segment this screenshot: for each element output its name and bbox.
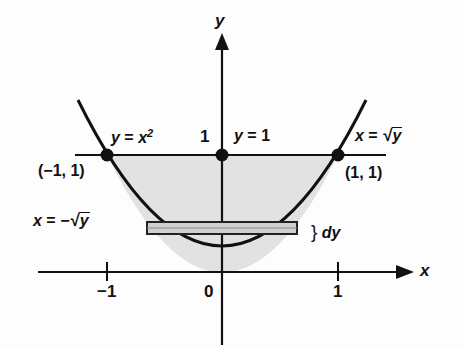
- label-point-right: (1, 1): [345, 165, 382, 181]
- label-point-left: (−1, 1): [38, 163, 85, 179]
- label-left-branch-radicand: y: [79, 212, 90, 229]
- label-line-equation-lhs: y: [234, 127, 243, 144]
- label-parabola-equation-operator: =: [124, 129, 133, 146]
- label-parabola-equation-rhs: x: [138, 129, 147, 146]
- point-marker-1-1: [332, 149, 345, 162]
- label-left-branch-equation: x = −√y: [33, 212, 90, 229]
- x-tick-label-1: 1: [333, 283, 342, 300]
- point-marker-0-1: [216, 149, 229, 162]
- y-axis-label: y: [215, 12, 224, 29]
- y-axis-arrowhead: [215, 33, 229, 50]
- label-right-branch-operator: =: [368, 127, 377, 144]
- label-left-branch-operator: =: [46, 212, 55, 229]
- label-right-branch-radicand: y: [392, 127, 403, 144]
- label-right-branch-equation: x = √y: [355, 127, 402, 144]
- x-axis-arrowhead: [396, 265, 414, 279]
- label-left-branch-lhs: x: [33, 212, 42, 229]
- label-right-branch-lhs: x: [355, 127, 364, 144]
- label-line-equation-operator: =: [247, 127, 256, 144]
- x-axis-label: x: [420, 262, 429, 279]
- label-parabola-equation-exponent: 2: [147, 127, 153, 139]
- label-parabola-equation-lhs: y: [111, 129, 120, 146]
- brace-icon: }: [311, 221, 317, 242]
- y-tick-label-1: 1: [200, 128, 209, 145]
- label-left-branch-radical-group: √y: [70, 212, 90, 229]
- point-marker-neg1-1: [101, 149, 114, 162]
- label-dy-text: dy: [322, 224, 341, 241]
- label-parabola-equation: y = x2: [111, 128, 153, 146]
- label-left-branch-minus: −: [60, 212, 69, 229]
- label-differential-dy: } dy: [311, 222, 340, 241]
- x-tick-label-neg1: −1: [97, 283, 116, 300]
- label-line-equation: y = 1: [234, 128, 270, 144]
- label-line-equation-rhs: 1: [261, 127, 270, 144]
- x-tick-label-0: 0: [204, 283, 213, 300]
- label-right-branch-radical-group: √y: [382, 127, 402, 144]
- calculus-region-figure: y = x2 1 y = 1 x = √y (−1, 1) (1, 1) x =…: [0, 0, 464, 347]
